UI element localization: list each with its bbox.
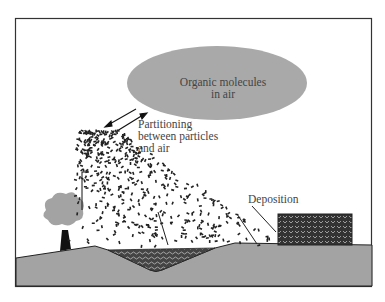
cloud-label: Organic molecules in air xyxy=(178,76,268,100)
building xyxy=(278,214,352,245)
tree-icon xyxy=(43,192,83,251)
deposition-arrows xyxy=(158,206,276,245)
deposition-label: Deposition xyxy=(248,193,298,205)
partitioning-label: Partitioning between particles and air xyxy=(138,118,218,154)
